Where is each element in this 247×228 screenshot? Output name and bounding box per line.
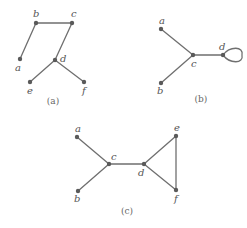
vertex-label-e: e — [174, 122, 180, 133]
vertex-f — [174, 188, 178, 192]
vertex-label-b: b — [157, 85, 163, 96]
edge-a-c — [161, 29, 193, 55]
vertex-label-b: b — [33, 8, 39, 19]
vertex-label-a: a — [159, 15, 165, 26]
vertex-label-c: c — [191, 58, 197, 69]
graph-caption: (c) — [121, 206, 133, 216]
graph-caption: (b) — [195, 94, 208, 104]
graph-a: abcdef(a) — [15, 8, 88, 106]
vertex-e — [174, 134, 178, 138]
vertex-d — [221, 53, 225, 57]
vertex-f — [82, 80, 86, 84]
edge-d-f — [144, 164, 176, 190]
vertex-b — [34, 21, 38, 25]
graph-figure: abcdef(a) abcd(b) abcdef(c) — [0, 0, 247, 228]
graph-c: abcdef(c) — [74, 122, 180, 216]
vertex-c — [70, 21, 74, 25]
edge-a-b — [20, 23, 36, 59]
vertex-label-f: f — [173, 193, 180, 204]
edge-d-e — [30, 60, 55, 82]
edge-d-e — [144, 136, 176, 164]
graph-caption: (a) — [47, 96, 59, 106]
vertex-label-e: e — [27, 85, 33, 96]
vertex-label-c: c — [71, 8, 77, 19]
vertex-a — [159, 27, 163, 31]
vertex-label-a: a — [15, 62, 21, 73]
graph-b: abcd(b) — [157, 15, 242, 104]
vertex-label-d: d — [138, 167, 144, 178]
vertex-label-d: d — [60, 53, 66, 64]
vertex-d — [142, 162, 146, 166]
vertex-a — [75, 135, 79, 139]
vertex-c — [107, 162, 111, 166]
vertex-a — [18, 57, 22, 61]
vertex-label-d: d — [219, 41, 225, 52]
vertex-c — [191, 53, 195, 57]
vertex-d — [53, 58, 57, 62]
vertex-label-c: c — [111, 151, 117, 162]
edge-a-c — [77, 137, 109, 164]
vertex-label-f: f — [81, 85, 88, 96]
edge-b-c — [78, 164, 109, 191]
vertex-e — [28, 80, 32, 84]
loop-edge-d — [223, 48, 242, 62]
vertex-label-b: b — [74, 193, 80, 204]
vertex-label-a: a — [75, 123, 81, 134]
edge-b-c — [161, 55, 193, 83]
